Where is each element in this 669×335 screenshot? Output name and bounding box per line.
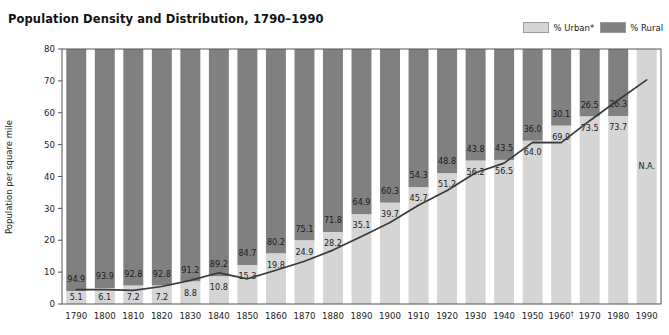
x-axis: 1790180018101820183018401850186018701880…	[65, 310, 657, 321]
x-tick-label: 1800	[94, 311, 116, 321]
bar-label-rural: 75.1	[295, 224, 313, 234]
x-tick-label: 1810	[122, 311, 144, 321]
bar-label-urban: 24.9	[295, 247, 313, 257]
bar-label-rural: 48.8	[438, 156, 456, 166]
x-tick-label: 1960†	[549, 310, 575, 321]
x-tick-label: 1860	[265, 311, 287, 321]
bar-segment-urban	[580, 117, 600, 304]
y-tick-label: 60	[44, 108, 55, 118]
bar-label-urban: 7.2	[127, 292, 140, 302]
bar-label-rural: 43.8	[467, 144, 485, 154]
bar-segment-rural	[437, 49, 457, 173]
bar-na	[637, 49, 657, 304]
bar-label-rural: 26.5	[581, 100, 599, 110]
bar-segment-rural	[237, 49, 257, 265]
x-tick-label: 1910	[408, 311, 430, 321]
bar-label-urban: 73.5	[581, 123, 599, 133]
bar-segment-urban	[523, 141, 543, 304]
bar-label-rural: 80.2	[267, 237, 285, 247]
y-tick-label: 80	[44, 44, 55, 54]
y-tick-label: 70	[44, 76, 55, 86]
bar-label-na: N.A.	[638, 161, 655, 171]
bar-segment-rural	[66, 49, 86, 291]
bar-label-urban: 73.7	[609, 122, 627, 132]
bar-label-urban: 51.2	[438, 179, 456, 189]
bar-label-rural: 91.2	[181, 265, 199, 275]
bar-label-rural: 93.9	[96, 271, 114, 281]
bar-label-urban: 56.2	[467, 167, 485, 177]
bar-label-rural: 71.8	[324, 215, 342, 225]
x-tick-label: 1920	[436, 311, 458, 321]
x-tick-label: 1830	[179, 311, 201, 321]
bar-label-urban: 7.2	[155, 292, 168, 302]
bar-label-rural: 30.1	[552, 109, 570, 119]
bar-segment-urban	[466, 161, 486, 304]
bar-segment-rural	[294, 49, 314, 241]
bar-segment-rural	[409, 49, 429, 187]
y-tick-label: 0	[50, 299, 55, 309]
y-tick-label: 40	[44, 172, 55, 182]
y-tick-label: 30	[44, 204, 55, 214]
bar-label-rural: 84.7	[238, 248, 256, 258]
bar-segment-rural	[152, 49, 172, 286]
bar-label-rural: 43.5	[495, 143, 513, 153]
bar-segment-rural	[352, 49, 372, 214]
y-tick-label: 20	[44, 235, 55, 245]
bar-segment-urban	[551, 126, 571, 304]
bar-segment-rural	[123, 49, 143, 286]
bar-label-urban: 69.9	[552, 132, 570, 142]
bars-group: 94.95.193.96.192.87.292.87.291.28.889.21…	[66, 49, 656, 304]
bar-label-rural: 36.0	[524, 124, 542, 134]
bar-label-urban: 6.1	[98, 292, 111, 302]
bar-label-rural: 89.2	[210, 259, 228, 269]
x-tick-label: 1880	[322, 311, 344, 321]
bar-label-urban: 64.0	[524, 147, 542, 157]
bar-label-rural: 54.3	[410, 170, 428, 180]
bar-label-rural: 60.3	[381, 186, 399, 196]
bar-segment-rural	[180, 49, 200, 282]
bar-segment-rural	[266, 49, 286, 254]
x-tick-label: 1870	[294, 311, 316, 321]
x-tick-label: 1840	[208, 311, 230, 321]
chart-root: Population Density and Distribution, 179…	[0, 0, 669, 335]
bar-segment-rural	[323, 49, 343, 232]
x-tick-label: 1900	[379, 311, 401, 321]
bar-segment-rural	[95, 49, 115, 288]
bar-segment-rural	[209, 49, 229, 276]
bar-label-urban: 39.7	[381, 209, 399, 219]
y-axis: 01020304050607080	[44, 44, 62, 309]
bar-label-urban: 5.1	[70, 292, 83, 302]
x-tick-label: 1990	[636, 311, 658, 321]
x-tick-label: 1940	[493, 311, 515, 321]
bar-segment-urban	[494, 160, 514, 304]
x-tick-label: 1980	[607, 311, 629, 321]
bar-segment-urban	[608, 116, 628, 304]
y-tick-label: 10	[44, 267, 55, 277]
x-tick-label: 1970	[579, 311, 601, 321]
bar-label-rural: 94.9	[67, 274, 85, 284]
bar-label-rural: 92.8	[153, 269, 171, 279]
bar-segment-urban	[437, 173, 457, 304]
bar-label-urban: 35.1	[352, 220, 370, 230]
bar-label-urban: 56.5	[495, 166, 513, 176]
x-tick-label: 1930	[465, 311, 487, 321]
bar-label-rural: 92.8	[124, 269, 142, 279]
bar-label-urban: 8.8	[184, 288, 197, 298]
bar-segment-rural	[380, 49, 400, 203]
x-tick-label: 1950	[522, 311, 544, 321]
x-tick-label: 1850	[236, 311, 258, 321]
chart-plot: 94.95.193.96.192.87.292.87.291.28.889.21…	[0, 0, 669, 335]
y-tick-label: 50	[44, 140, 55, 150]
bar-label-rural: 64.9	[352, 197, 370, 207]
x-tick-label: 1820	[151, 311, 173, 321]
x-tick-label: 1790	[65, 311, 87, 321]
x-tick-label: 1890	[351, 311, 373, 321]
bar-label-urban: 10.8	[210, 282, 228, 292]
